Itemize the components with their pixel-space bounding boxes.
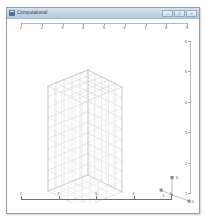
mesh-edge xyxy=(75,84,115,100)
axis-tick xyxy=(21,196,22,200)
triad-label-3: 3 xyxy=(176,175,179,180)
maximize-button[interactable]: □ xyxy=(174,10,185,17)
triad-node-1 xyxy=(160,189,163,192)
ruler-tick-label: 2 xyxy=(185,160,187,165)
title-bar[interactable]: Computational – □ × xyxy=(7,8,199,19)
triad-axis-2-line xyxy=(172,195,189,201)
ruler-tick-label: 6 xyxy=(124,25,126,30)
ruler-tick-label: 3 xyxy=(185,130,187,135)
axis-tick-label: 3 xyxy=(95,191,97,196)
ruler-tick xyxy=(188,102,191,103)
ruler-tick-label: 8 xyxy=(165,25,167,30)
ruler-tick xyxy=(188,41,191,42)
window-title: Computational xyxy=(17,10,162,16)
close-icon: × xyxy=(187,11,196,16)
application-window: Computational – □ × 123456789 xyxy=(6,7,200,214)
ruler-tick xyxy=(188,163,191,164)
viewport-canvas[interactable]: 123456789 654321 12345 xyxy=(7,19,199,213)
window-controls: – □ × xyxy=(162,10,197,17)
axis-tick-label: 1 xyxy=(20,191,22,196)
axis-tick xyxy=(59,196,60,200)
mesh-wireframe xyxy=(41,35,163,203)
minimize-button[interactable]: – xyxy=(162,10,173,17)
coordinate-triad: 3 1 2 xyxy=(159,171,197,207)
ruler-tick-label: 1 xyxy=(20,25,22,30)
triad-node-2 xyxy=(188,200,191,203)
axis-tick-label: 4 xyxy=(132,191,134,196)
mesh-edge xyxy=(62,77,102,93)
ruler-tick-label: 5 xyxy=(185,69,187,74)
ruler-tick-label: 5 xyxy=(103,25,105,30)
close-button[interactable]: × xyxy=(186,10,197,17)
mesh-edge xyxy=(68,80,108,96)
ruler-tick xyxy=(188,71,191,72)
ruler-tick-label: 2 xyxy=(41,25,43,30)
triad-label-2: 2 xyxy=(192,199,195,204)
ruler-tick-label: 4 xyxy=(185,99,187,104)
bottom-axis: 12345 xyxy=(21,192,171,201)
mesh-edge xyxy=(88,70,122,87)
axis-tick-label: 2 xyxy=(57,191,59,196)
triad-origin xyxy=(171,194,173,196)
ruler-tick-label: 6 xyxy=(185,39,187,44)
ruler-tick-label: 4 xyxy=(82,25,84,30)
axis-tick xyxy=(96,196,97,200)
ruler-tick xyxy=(188,132,191,133)
triad-label-1: 1 xyxy=(163,193,166,198)
horizontal-ruler: 123456789 xyxy=(21,21,187,32)
maximize-icon: □ xyxy=(175,11,184,16)
app-icon xyxy=(9,10,15,16)
ruler-tick-label: 7 xyxy=(144,25,146,30)
mesh-edge xyxy=(48,70,88,86)
ruler-tick-label: 9 xyxy=(186,25,188,30)
mesh-edge xyxy=(55,73,95,89)
ruler-tick-label: 3 xyxy=(61,25,63,30)
axis-tick xyxy=(134,196,135,200)
minimize-icon: – xyxy=(163,11,172,16)
triad-node-3 xyxy=(170,176,173,179)
